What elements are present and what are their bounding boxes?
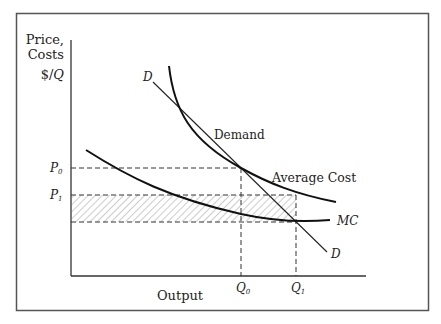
demand-bottom-label: D [330, 247, 341, 261]
y-axis-label-line2: Costs [28, 47, 64, 62]
p1-label: P1 [49, 188, 63, 203]
average-cost-label: Average Cost [271, 170, 356, 185]
q0-label: Q0 [236, 281, 251, 296]
p0-label: P0 [49, 161, 63, 176]
demand-top-label: D [142, 70, 153, 84]
y-axis-label-line1: Price, [26, 32, 64, 47]
x-axis-label: Output [157, 288, 204, 303]
demand-name-label: Demand [214, 128, 265, 142]
cost-curve-diagram: Price, Costs $/Q P0 P1 Q0 Q1 Output D De… [0, 0, 441, 324]
y-axis-unit: $/Q [41, 67, 65, 82]
figure-frame [17, 14, 429, 311]
q1-label: Q1 [291, 281, 305, 296]
mc-label: MC [336, 214, 358, 228]
